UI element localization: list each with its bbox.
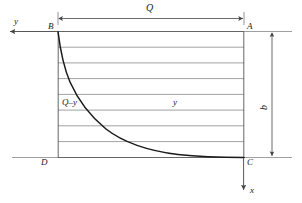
region-label-right: y	[173, 98, 177, 107]
vertex-label-a: A	[247, 22, 253, 31]
region-label-left: Q–y	[62, 98, 77, 107]
horizontal-gridlines	[58, 47, 244, 141]
vertex-label-d: D	[41, 158, 48, 167]
height-dimension-label: b	[259, 105, 269, 110]
width-dimension-line	[58, 12, 244, 25]
figure-container: Q y B A b Q–y y D C x	[0, 0, 302, 203]
width-dimension-label: Q	[146, 3, 153, 13]
y-axis-label: y	[14, 17, 18, 26]
vertex-label-c: C	[247, 158, 253, 167]
vertex-label-b: B	[48, 22, 54, 31]
x-axis-label: x	[250, 186, 254, 195]
diagram-svg	[0, 0, 302, 203]
